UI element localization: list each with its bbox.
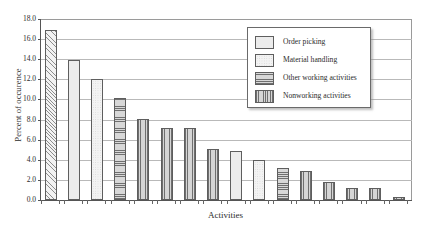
y-axis-tick-label: 16.0 [10, 35, 36, 43]
bar [300, 171, 312, 200]
bar [45, 30, 57, 200]
y-axis-tick-label: 4.0 [10, 156, 36, 164]
x-tick-mark [342, 200, 343, 204]
bar [114, 98, 126, 200]
x-tick-mark [82, 200, 83, 204]
x-tick-mark [407, 200, 408, 204]
bar [230, 151, 242, 200]
x-tick-mark [273, 200, 274, 204]
x-tick-mark [384, 200, 385, 204]
bar [137, 119, 149, 200]
x-tick-mark [180, 200, 181, 204]
bar [277, 168, 289, 200]
x-tick-mark [129, 200, 130, 204]
x-tick-mark [221, 200, 222, 204]
legend-item: Other working activities [248, 69, 370, 87]
y-axis-tick-label: 14.0 [10, 55, 36, 63]
x-tick-mark [87, 200, 88, 204]
legend-swatch [255, 36, 274, 49]
x-tick-mark [291, 200, 292, 204]
x-tick-mark [245, 200, 246, 204]
x-tick-mark [198, 200, 199, 204]
bar [393, 197, 405, 200]
x-tick-mark [337, 200, 338, 204]
x-tick-mark [296, 200, 297, 204]
chart-legend: Order pickingMaterial handlingOther work… [247, 27, 371, 108]
legend-swatch [255, 90, 274, 103]
bar [207, 149, 219, 200]
x-tick-mark [227, 200, 228, 204]
y-axis-tick-label: 10.0 [10, 95, 36, 103]
x-tick-mark [314, 200, 315, 204]
bar [253, 160, 265, 200]
x-tick-mark [64, 200, 65, 204]
bar [346, 188, 358, 200]
y-axis-tick-labels: 18.016.014.012.010.08.06.04.02.00.0 [8, 0, 36, 236]
x-tick-mark [319, 200, 320, 204]
x-tick-mark [366, 200, 367, 204]
legend-label: Other working activities [283, 74, 357, 82]
legend-label: Order picking [283, 38, 325, 46]
x-tick-mark [152, 200, 153, 204]
bar-chart-figure: Percent of occurence 18.016.014.012.010.… [0, 0, 424, 236]
x-tick-mark [361, 200, 362, 204]
y-axis-tick-label: 12.0 [10, 75, 36, 83]
bar [91, 79, 103, 200]
y-axis-tick-label: 2.0 [10, 176, 36, 184]
y-axis-tick-label: 6.0 [10, 136, 36, 144]
legend-item: Material handling [248, 51, 370, 69]
x-axis-title: Activities [40, 210, 411, 220]
x-tick-mark [268, 200, 269, 204]
bar [184, 128, 196, 200]
x-tick-mark [157, 200, 158, 204]
bar [369, 188, 381, 200]
y-axis-tick-label: 18.0 [10, 15, 36, 23]
legend-swatch [255, 72, 274, 85]
legend-item: Order picking [248, 33, 370, 51]
bar [323, 182, 335, 200]
x-tick-mark [111, 200, 112, 204]
x-tick-mark [41, 200, 42, 204]
legend-swatch [255, 54, 274, 67]
x-tick-mark [175, 200, 176, 204]
x-tick-mark [250, 200, 251, 204]
legend-item: Nonworking activities [248, 87, 370, 105]
y-axis-tick-label: 8.0 [10, 116, 36, 124]
x-tick-mark [389, 200, 390, 204]
legend-label: Nonworking activities [283, 92, 351, 100]
x-tick-mark [203, 200, 204, 204]
legend-label: Material handling [283, 56, 337, 64]
x-tick-mark [59, 200, 60, 204]
x-tick-mark [134, 200, 135, 204]
x-tick-mark [105, 200, 106, 204]
y-axis-tick-label: 0.0 [10, 196, 36, 204]
bar [161, 128, 173, 200]
bar [68, 60, 80, 200]
